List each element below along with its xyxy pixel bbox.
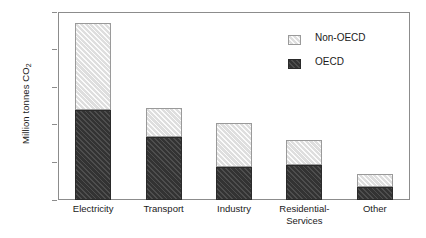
y-axis-tick-mark — [52, 12, 57, 13]
y-axis-tick-mark — [52, 200, 57, 201]
x-axis-tick-label: Industry — [199, 203, 269, 215]
bar-segment-oecd[interactable] — [357, 187, 393, 200]
y-axis-tick-mark — [52, 124, 57, 125]
bar-group[interactable] — [146, 108, 182, 200]
legend-label: OECD — [315, 56, 344, 67]
legend-swatch — [288, 35, 301, 45]
y-axis-tick-mark — [52, 162, 57, 163]
bar-segment-non-oecd[interactable] — [75, 23, 111, 109]
bar-segment-non-oecd[interactable] — [146, 108, 182, 137]
x-axis-tick-label: Electricity — [58, 203, 128, 215]
bar-segment-non-oecd[interactable] — [357, 174, 393, 187]
bar-group[interactable] — [286, 140, 322, 200]
y-axis-tick-mark — [52, 87, 57, 88]
bar-segment-oecd[interactable] — [75, 110, 111, 200]
x-axis-tick-label: Transport — [128, 203, 198, 215]
bar-group[interactable] — [75, 23, 111, 200]
bar-segment-non-oecd[interactable] — [286, 140, 322, 165]
x-axis-tick-label: Other — [340, 203, 410, 215]
legend-label: Non-OECD — [315, 32, 366, 43]
emissions-stacked-bar-chart: Million tonnes CO2 020004000600080001000… — [0, 0, 426, 238]
bar-segment-oecd[interactable] — [286, 165, 322, 200]
bar-group[interactable] — [216, 123, 252, 200]
x-axis-tick-label: Residential- Services — [269, 203, 339, 226]
bar-segment-oecd[interactable] — [146, 137, 182, 200]
y-axis-title-subscript: 2 — [25, 63, 32, 67]
y-axis-title: Million tonnes CO2 — [20, 4, 31, 204]
bar-segment-non-oecd[interactable] — [216, 123, 252, 167]
y-axis-title-text: Million tonnes CO — [20, 67, 31, 144]
y-axis-tick-mark — [52, 49, 57, 50]
bar-segment-oecd[interactable] — [216, 167, 252, 200]
legend-swatch — [288, 59, 301, 69]
bar-group[interactable] — [357, 174, 393, 200]
x-axis-labels: ElectricityTransportIndustryResidential-… — [58, 203, 410, 237]
